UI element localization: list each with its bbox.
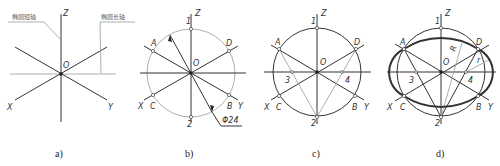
point-b bbox=[353, 94, 356, 97]
point-4 bbox=[341, 71, 344, 74]
label-a: A bbox=[399, 38, 405, 47]
caption-b: b) bbox=[185, 148, 193, 160]
label-b: B bbox=[227, 102, 233, 111]
radius-r-label: r bbox=[477, 56, 481, 65]
label-1: 1 bbox=[186, 17, 191, 26]
panel-a: 椭圆短轴 椭圆长轴 Z O X Y a) bbox=[6, 9, 135, 160]
diameter-dimension-line bbox=[170, 35, 242, 126]
x-label: X bbox=[6, 103, 13, 112]
x-label: X bbox=[386, 103, 393, 112]
y-label: Y bbox=[364, 103, 370, 112]
caption-c: c) bbox=[312, 148, 320, 160]
point-3 bbox=[291, 71, 294, 74]
y-label: Y bbox=[108, 103, 114, 112]
point-c bbox=[402, 94, 405, 97]
z-label: Z bbox=[320, 9, 327, 18]
point-c bbox=[277, 94, 280, 97]
origin-dot bbox=[315, 70, 319, 74]
panel-b: 1 Z A D O X C B Y 2 Φ24 b) bbox=[137, 9, 246, 160]
x-label: X bbox=[263, 103, 270, 112]
point-b bbox=[227, 93, 230, 96]
point-c bbox=[151, 93, 154, 96]
label-a: A bbox=[274, 38, 280, 47]
origin-dot bbox=[439, 70, 443, 74]
x-label: X bbox=[137, 102, 144, 111]
label-2: 2 bbox=[311, 119, 316, 128]
minor-axis-leader bbox=[8, 22, 61, 40]
label-b: B bbox=[476, 103, 482, 112]
ellipse-construction-figure: 椭圆短轴 椭圆长轴 Z O X Y a) 1 Z A D O X C B Y 2… bbox=[0, 0, 500, 166]
caption-a: a) bbox=[55, 148, 63, 160]
label-d: D bbox=[354, 38, 360, 47]
point-4 bbox=[465, 71, 468, 74]
y-label: Y bbox=[238, 102, 244, 111]
label-b: B bbox=[352, 103, 358, 112]
origin-dot bbox=[59, 72, 63, 76]
origin-label: O bbox=[320, 58, 326, 67]
label-3: 3 bbox=[285, 76, 290, 85]
label-c: C bbox=[400, 103, 406, 112]
label-2: 2 bbox=[187, 120, 192, 129]
origin-label: O bbox=[443, 58, 449, 67]
minor-axis-label: 椭圆短轴 bbox=[12, 13, 36, 21]
origin-dot bbox=[189, 71, 193, 75]
point-1 bbox=[439, 26, 442, 29]
panel-d: 1 Z A D O R r 3 4 X C B Y 2 d) bbox=[386, 9, 496, 160]
label-2: 2 bbox=[435, 119, 440, 128]
point-1 bbox=[315, 26, 318, 29]
point-d bbox=[476, 47, 479, 50]
label-d: D bbox=[226, 39, 232, 48]
origin-label: O bbox=[193, 59, 199, 68]
point-d bbox=[227, 49, 230, 52]
point-2 bbox=[189, 115, 192, 118]
origin-label: O bbox=[63, 61, 69, 70]
label-1: 1 bbox=[435, 17, 440, 26]
label-3: 3 bbox=[409, 76, 414, 85]
radius-R-label: R bbox=[448, 44, 458, 52]
caption-d: d) bbox=[436, 148, 444, 160]
point-1 bbox=[189, 27, 192, 30]
z-label: Z bbox=[194, 9, 201, 18]
label-d: D bbox=[476, 38, 482, 47]
label-1: 1 bbox=[311, 17, 316, 26]
point-a bbox=[402, 47, 405, 50]
label-c: C bbox=[276, 103, 282, 112]
point-d bbox=[354, 47, 357, 50]
label-c: C bbox=[150, 102, 156, 111]
point-a bbox=[277, 47, 280, 50]
y-label: Y bbox=[488, 103, 494, 112]
label-4: 4 bbox=[345, 76, 350, 85]
diameter-label: Φ24 bbox=[222, 116, 238, 125]
label-a: A bbox=[150, 39, 156, 48]
point-b bbox=[476, 94, 479, 97]
z-label: Z bbox=[444, 9, 451, 18]
major-axis-label: 椭圆长轴 bbox=[101, 13, 125, 21]
point-3 bbox=[415, 71, 418, 74]
label-4: 4 bbox=[468, 76, 473, 85]
point-a bbox=[151, 49, 154, 52]
panel-c: 1 Z A D O 3 4 X C B Y 2 c) bbox=[263, 9, 371, 160]
z-label: Z bbox=[62, 9, 69, 18]
